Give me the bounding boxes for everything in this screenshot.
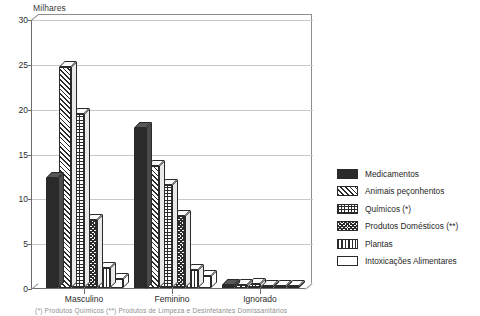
legend-item-label: Químicos (*) bbox=[365, 204, 411, 214]
bar-face bbox=[261, 286, 273, 288]
legend-item-label: Plantas bbox=[365, 239, 393, 249]
bar-side bbox=[185, 210, 191, 288]
legend-item-label: Animais peçonhentos bbox=[365, 186, 444, 196]
bar-chart: Milhares 051015202530 MasculinoFemininoI… bbox=[0, 0, 480, 316]
bar-ignorado-3 bbox=[261, 286, 273, 288]
legend-item-label: Intoxicações Alimentares bbox=[365, 256, 457, 266]
legend-swatch-icon-check bbox=[337, 221, 358, 231]
bar-masculino-0 bbox=[46, 178, 58, 288]
legend-item-label: Medicamentos bbox=[365, 169, 419, 179]
y-axis-title: Milhares bbox=[33, 3, 66, 13]
bar-face bbox=[235, 285, 247, 288]
legend-swatch-icon-grid bbox=[337, 204, 358, 214]
x-tick-mark-masculino bbox=[84, 289, 85, 294]
legend-swatch-icon-empty bbox=[337, 256, 358, 266]
chart-footnote: (*) Produtos Químicos (**) Produtos de L… bbox=[35, 307, 287, 314]
x-axis-label-masculino: Masculino bbox=[65, 294, 103, 304]
legend-item-3[interactable]: Produtos Domésticos (**) bbox=[337, 218, 458, 236]
bar-ignorado-4 bbox=[274, 286, 286, 288]
legend-item-4[interactable]: Plantas bbox=[337, 235, 458, 253]
y-tick-label-10: 10 bbox=[19, 194, 28, 204]
bars-layer bbox=[32, 20, 305, 288]
bar-side bbox=[71, 62, 77, 288]
legend: MedicamentosAnimais peçonhentosQuímicos … bbox=[337, 165, 458, 270]
y-tick-label-15: 15 bbox=[19, 150, 28, 160]
bar-feminino-0 bbox=[134, 128, 146, 289]
y-tick-label-20: 20 bbox=[19, 105, 28, 115]
legend-item-2[interactable]: Químicos (*) bbox=[337, 200, 458, 218]
bar-side bbox=[172, 179, 178, 288]
bar-face bbox=[46, 178, 58, 288]
x-axis-label-feminino: Feminino bbox=[155, 294, 190, 304]
bar-ignorado-5 bbox=[287, 286, 299, 288]
bar-side bbox=[58, 172, 64, 288]
x-axis-label-ignorado: Ignorado bbox=[243, 294, 277, 304]
y-tick-label-25: 25 bbox=[19, 60, 28, 70]
legend-item-label: Produtos Domésticos (**) bbox=[365, 221, 458, 231]
bar-side bbox=[159, 160, 165, 288]
x-tick-mark-ignorado bbox=[260, 289, 261, 294]
bar-face bbox=[287, 286, 299, 288]
bar-side bbox=[84, 108, 90, 288]
y-tick-label-30: 30 bbox=[19, 15, 28, 25]
legend-item-0[interactable]: Medicamentos bbox=[337, 165, 458, 183]
legend-swatch-icon-solid bbox=[337, 169, 358, 179]
legend-swatch-icon-diag bbox=[337, 186, 358, 196]
depth-line-2 bbox=[305, 283, 313, 290]
bar-face bbox=[222, 285, 234, 288]
bar-ignorado-0 bbox=[222, 285, 234, 288]
bar-side bbox=[146, 122, 152, 288]
plot-area: 051015202530 bbox=[31, 20, 305, 289]
bar-face bbox=[274, 286, 286, 288]
legend-item-1[interactable]: Animais peçonhentos bbox=[337, 183, 458, 201]
x-tick-mark-feminino bbox=[172, 289, 173, 294]
bar-face bbox=[134, 128, 146, 289]
bar-side bbox=[97, 214, 103, 288]
legend-swatch-icon-vert bbox=[337, 239, 358, 249]
bar-ignorado-1 bbox=[235, 285, 247, 288]
legend-item-5[interactable]: Intoxicações Alimentares bbox=[337, 253, 458, 271]
